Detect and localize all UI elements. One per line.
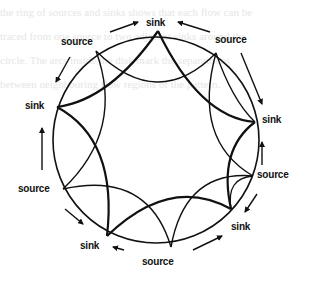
arc-sink-right-to-sink-lowright: [228, 122, 255, 209]
arrow-upright-source-to-right-sink: [241, 53, 262, 104]
node-label-source-left: source: [18, 183, 50, 194]
node-label-sink-bottomleft: sink: [80, 240, 99, 251]
arc-sink-lowright-to-sink-bottomleft: [107, 197, 231, 236]
node-label-source-right: source: [257, 169, 289, 180]
node-label-sink-left: sink: [25, 100, 44, 111]
arrow-left-source-to-bottomleft-sink: [65, 209, 83, 224]
arrow-right-source-to-lowright-sink: [245, 194, 257, 212]
arrow-upleft-source-to-top-sink: [110, 22, 138, 32]
arc-source-right-to-source-bottom: [171, 176, 253, 247]
node-label-source-bottom: source: [142, 256, 174, 267]
source-sink-circle-diagram: [0, 0, 309, 283]
arrow-bottom-source-to-lowright-sink: [193, 236, 222, 250]
arrow-bottom-source-to-bottomleft-sink: [113, 247, 124, 250]
node-label-sink-lowright: sink: [231, 221, 250, 232]
arc-source-left-to-source-upleft: [63, 51, 105, 189]
arrow-upleft-source-to-left-sink: [56, 57, 70, 82]
node-label-source-upleft: source: [61, 36, 93, 47]
node-label-sink-right: sink: [262, 114, 281, 125]
arc-sink-bottomleft-to-sink-left: [57, 107, 109, 236]
flow-arrows: [42, 22, 262, 250]
node-label-source-upright: source: [215, 34, 247, 45]
boundary-circle: [53, 37, 259, 243]
arrow-upright-source-to-top-sink: [178, 22, 210, 32]
node-label-sink-top: sink: [146, 17, 165, 28]
arc-source-bottom-to-source-left: [63, 185, 171, 247]
arc-source-upleft-to-source-upright: [96, 51, 216, 82]
